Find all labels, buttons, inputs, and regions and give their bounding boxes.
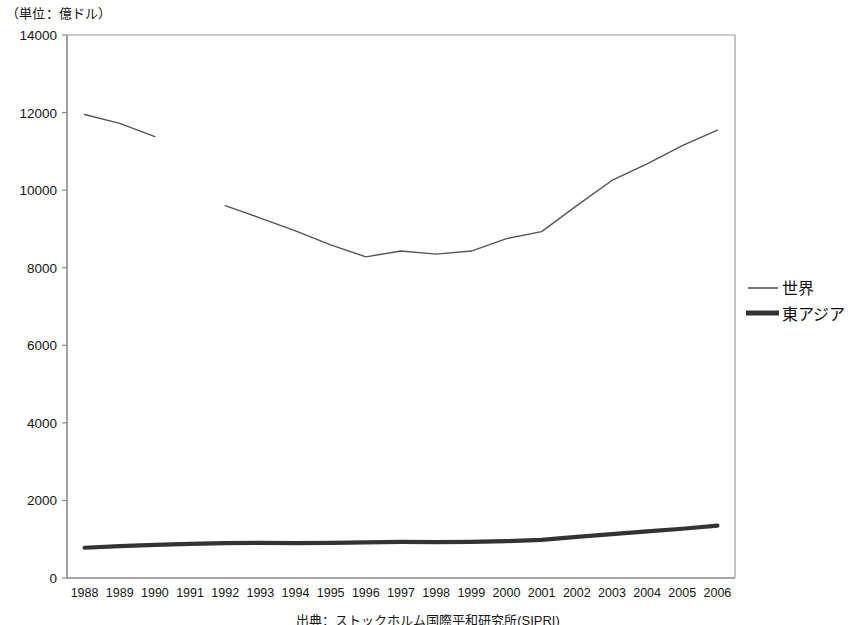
- x-axis-tick-label: 1996: [352, 586, 380, 600]
- x-axis-tick-label: 1993: [246, 586, 274, 600]
- y-axis-tick-label: 14000: [19, 28, 57, 43]
- x-axis-tick-label: 2005: [668, 586, 696, 600]
- x-axis-tick-label: 1992: [211, 586, 239, 600]
- y-axis-tick-label: 8000: [27, 261, 57, 276]
- line-chart: 02000400060008000100001200014000 1988198…: [0, 0, 856, 625]
- x-axis-tick-label: 2004: [633, 586, 661, 600]
- x-axis-tick-label: 1989: [106, 586, 134, 600]
- y-axis-tick-label: 0: [49, 571, 57, 586]
- x-axis-tick-label: 1998: [422, 586, 450, 600]
- chart-legend: 世界 東アジア: [746, 280, 845, 323]
- x-axis-tick-label: 2006: [704, 586, 732, 600]
- x-axis-tick-label: 1997: [387, 586, 415, 600]
- legend-label-world: 世界: [782, 280, 814, 297]
- data-series-group: [85, 115, 718, 548]
- x-axis-tick-label: 2000: [493, 586, 521, 600]
- x-axis-tick-label: 2002: [563, 586, 591, 600]
- series-line-world: [85, 115, 718, 257]
- y-axis-tick-label: 4000: [27, 416, 57, 431]
- plot-frame: [67, 35, 735, 578]
- x-axis-tick-labels: 1988198919901991199219931994199519961997…: [71, 586, 732, 600]
- x-axis-tick-label: 1995: [317, 586, 345, 600]
- x-axis-tick-label: 1999: [457, 586, 485, 600]
- x-axis-tick-label: 2001: [528, 586, 556, 600]
- y-axis-tick-labels: 02000400060008000100001200014000: [19, 28, 57, 586]
- y-axis-tick-label: 12000: [19, 106, 57, 121]
- y-axis-tick-label: 10000: [19, 183, 57, 198]
- y-axis-tick-label: 2000: [27, 493, 57, 508]
- x-axis-tick-label: 1994: [282, 586, 310, 600]
- chart-page: （単位：億ドル） 0200040006000800010000120001400…: [0, 0, 856, 625]
- x-axis-tick-label: 1991: [176, 586, 204, 600]
- x-axis-tick-label: 1990: [141, 586, 169, 600]
- y-axis-tick-label: 6000: [27, 338, 57, 353]
- series-line-east-asia: [85, 526, 718, 548]
- source-note: 出典：ストックホルム国際平和研究所(SIPRI): [0, 610, 856, 625]
- x-axis-tick-label: 1988: [71, 586, 99, 600]
- x-axis-tick-label: 2003: [598, 586, 626, 600]
- legend-label-east-asia: 東アジア: [782, 306, 845, 323]
